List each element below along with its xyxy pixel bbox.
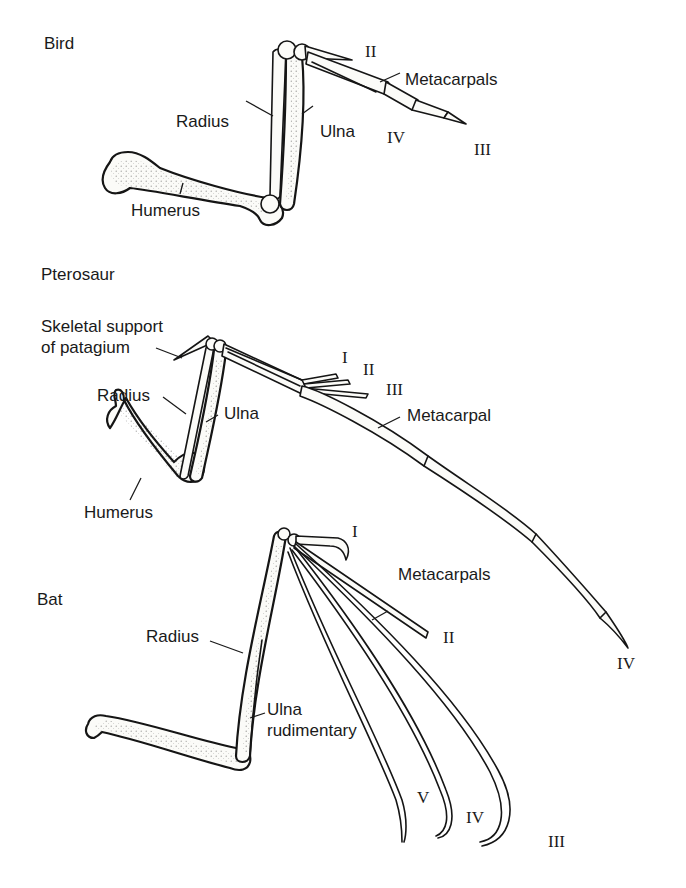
panel-title-bat: Bat xyxy=(37,590,63,610)
pterosaur-digit-iii: III xyxy=(386,380,403,400)
panel-title-pterosaur: Pterosaur xyxy=(41,265,115,285)
pterosaur-label-skeletal-support-line1: Skeletal support xyxy=(41,317,163,337)
bird-digit-iii: III xyxy=(474,140,491,160)
bat-digit-i: I xyxy=(352,522,358,542)
bird-label-radius: Radius xyxy=(176,112,229,132)
pterosaur-label-skeletal-support-line2: of patagium xyxy=(41,338,130,358)
pterosaur-digit-iv: IV xyxy=(617,654,635,674)
bat-digit-iii: III xyxy=(548,832,565,852)
bat-label-metacarpals: Metacarpals xyxy=(398,565,491,585)
pterosaur-digit-ii: II xyxy=(363,360,374,380)
bird-digit-ii: II xyxy=(365,42,376,62)
bird-label-metacarpals: Metacarpals xyxy=(405,70,498,90)
bird-digit-iv: IV xyxy=(387,128,405,148)
bird-label-humerus: Humerus xyxy=(131,201,200,221)
pterosaur-label-ulna: Ulna xyxy=(224,404,259,424)
panel-title-bird: Bird xyxy=(44,34,74,54)
bat-digit-ii: II xyxy=(443,628,454,648)
pterosaur-digit-i: I xyxy=(342,348,348,368)
bat-digit-v: V xyxy=(417,788,429,808)
wing-homology-diagram: Bird Radius Ulna Humerus Metacarpals II … xyxy=(0,0,686,888)
bat-label-ulna-line1: Ulna xyxy=(267,700,302,720)
bird-label-ulna: Ulna xyxy=(320,122,355,142)
bat-label-ulna-line2: rudimentary xyxy=(267,721,357,741)
bird-wing-skeleton xyxy=(103,41,466,225)
bat-label-radius: Radius xyxy=(146,627,199,647)
pterosaur-label-metacarpal: Metacarpal xyxy=(407,406,491,426)
pterosaur-wing-skeleton xyxy=(107,336,628,648)
pterosaur-label-radius: Radius xyxy=(97,386,150,406)
pterosaur-label-humerus: Humerus xyxy=(84,503,153,523)
bat-digit-iv: IV xyxy=(466,808,484,828)
